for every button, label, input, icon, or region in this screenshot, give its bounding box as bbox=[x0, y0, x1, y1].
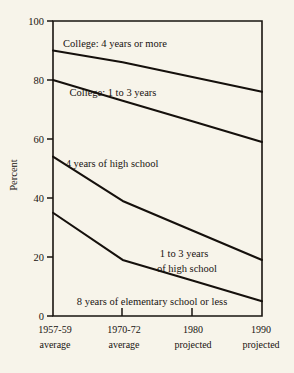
x-tick-label-1-line1: 1970-72 bbox=[107, 324, 140, 335]
annotation-1-to-3-years-line2: of high school bbox=[157, 263, 217, 274]
annotation-4-years-high-school: 4 years of high school bbox=[66, 158, 159, 169]
y-tick-label-60: 60 bbox=[34, 134, 45, 145]
x-tick-label-2-line1: 1980 bbox=[183, 324, 203, 335]
chart-figure: 100 80 60 40 20 0 Percent 1957-59 averag… bbox=[0, 0, 294, 373]
x-tick-label-3-line2: projected bbox=[242, 339, 279, 350]
x-tick-label-1-line2: average bbox=[108, 339, 140, 350]
annotation-elementary-school: 8 years of elementary school or less bbox=[77, 296, 227, 307]
x-tick-label-3-line1: 1990 bbox=[251, 324, 271, 335]
y-tick-label-80: 80 bbox=[34, 75, 45, 86]
y-tick-label-20: 20 bbox=[34, 252, 45, 263]
x-tick-label-2-line2: projected bbox=[174, 339, 211, 350]
annotation-college-4-or-more: College: 4 years or more bbox=[63, 38, 167, 49]
y-tick-label-0: 0 bbox=[39, 311, 44, 322]
annotation-college-1-to-3: College: 1 to 3 years bbox=[70, 87, 157, 98]
chart-background bbox=[0, 0, 294, 373]
y-tick-label-40: 40 bbox=[34, 193, 45, 204]
y-axis-title: Percent bbox=[8, 159, 19, 191]
y-tick-label-100: 100 bbox=[28, 16, 44, 27]
line-chart-svg: 100 80 60 40 20 0 Percent 1957-59 averag… bbox=[0, 0, 294, 373]
x-tick-label-0-line2: average bbox=[39, 339, 71, 350]
annotation-1-to-3-years-line1: 1 to 3 years bbox=[160, 248, 209, 259]
x-tick-label-0-line1: 1957-59 bbox=[38, 324, 71, 335]
